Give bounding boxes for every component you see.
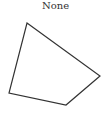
polygon-outline xyxy=(9,23,100,105)
quadrilateral-shape xyxy=(0,0,111,116)
